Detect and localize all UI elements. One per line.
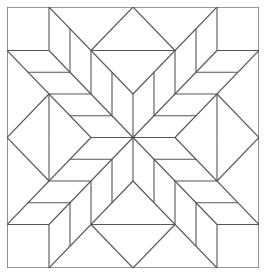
pattern-segment bbox=[133, 225, 175, 269]
pattern-segment bbox=[7, 94, 49, 138]
pattern-segment bbox=[133, 7, 175, 51]
pattern-segment bbox=[91, 7, 133, 51]
pattern-segment bbox=[217, 138, 259, 182]
quilt-block-diagram bbox=[7, 7, 259, 268]
pattern-segment bbox=[91, 225, 133, 269]
pattern-segment bbox=[7, 138, 49, 182]
pattern-segment bbox=[217, 94, 259, 138]
star-pattern-lines bbox=[7, 7, 259, 268]
